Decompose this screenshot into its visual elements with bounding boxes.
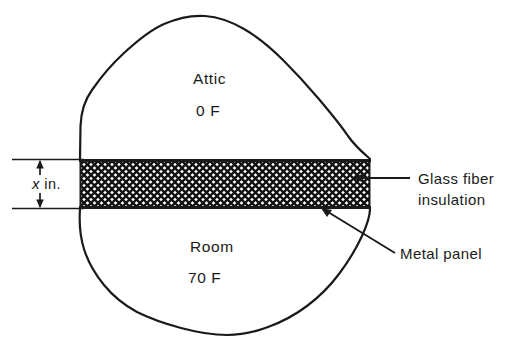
metal-panel-leader-line xyxy=(328,212,395,253)
dimension-unit: in. xyxy=(40,176,61,192)
metal-panel-label: Metal panel xyxy=(400,245,482,262)
callout-glass-fiber-insulation: Glass fiber insulation xyxy=(352,170,494,208)
glass-fiber-label-line1: Glass fiber xyxy=(418,170,494,187)
room-temperature-label: 70 F xyxy=(188,269,221,286)
callout-metal-panel: Metal panel xyxy=(321,208,482,262)
room-zone-label: Room xyxy=(190,238,234,255)
room-outline-path xyxy=(80,209,370,335)
dimension-arrowhead-down-icon xyxy=(36,200,44,209)
dimension-label: x in. xyxy=(31,175,61,192)
attic-outline-path xyxy=(80,16,370,159)
insulation-hatch-fill xyxy=(80,159,370,209)
glass-fiber-label-line2: insulation xyxy=(418,191,485,208)
dimension-arrowhead-up-icon xyxy=(36,160,44,169)
attic-temperature-label: 0 F xyxy=(196,102,220,119)
thickness-dimension: x in. xyxy=(12,160,84,209)
attic-zone-label: Attic xyxy=(193,70,226,87)
insulation-layer xyxy=(79,159,371,209)
dimension-symbol: x xyxy=(31,175,40,192)
diagram-canvas: x in. Attic 0 F Room 70 F Glass fiber in… xyxy=(0,0,514,353)
